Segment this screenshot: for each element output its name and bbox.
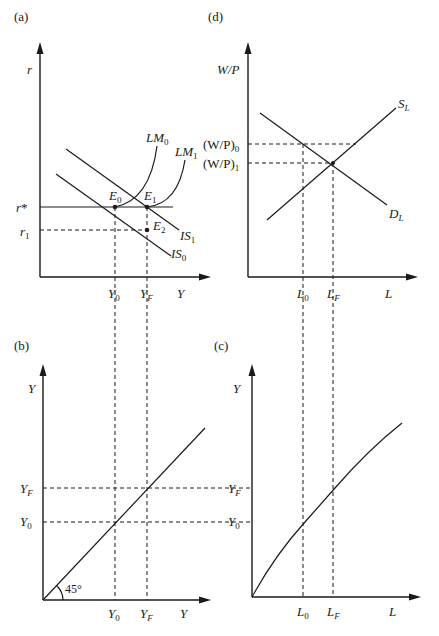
panel-b-45-degree-line <box>43 428 205 600</box>
panel-d-labor-market: (d) W/P L SL DL (W/P)0 (W/P)1 L0 LF <box>203 9 418 597</box>
panel-b-tick-Y0-x: Y0 <box>108 606 120 623</box>
panel-a-label-IS0: IS0 <box>170 246 187 263</box>
panel-d-x-arrow-icon <box>406 274 418 281</box>
panel-b-angle-label: 45° <box>65 582 82 596</box>
panel-a-label: (a) <box>14 9 28 24</box>
panel-a-label-LM0: LM0 <box>145 130 169 147</box>
panel-a-x-axis-label: Y <box>177 286 186 301</box>
panel-b-x-arrow-icon <box>199 597 211 604</box>
panel-b-angle-arc <box>57 586 63 600</box>
panel-c-y-axis-label: Y <box>233 381 242 396</box>
panel-a-IS0-curve <box>56 174 171 256</box>
panel-d-y-arrow-icon <box>245 42 252 54</box>
panel-a-x-arrow-icon <box>199 274 211 281</box>
panel-c-label: (c) <box>214 338 228 353</box>
panel-c-production-curve <box>252 423 402 597</box>
panel-d-tick-WP0: (W/P)0 <box>203 137 240 154</box>
panel-b-y-arrow-icon <box>40 364 47 376</box>
panel-a-point-E1 <box>145 205 150 210</box>
panel-c-tick-YF: YF <box>228 481 241 498</box>
panel-a-IS1-curve <box>66 149 179 230</box>
panel-d-label-SL: SL <box>398 96 410 113</box>
panel-c-x-arrow-icon <box>409 594 421 601</box>
panel-a-tick-r1: r1 <box>20 224 30 241</box>
panel-b-y-axis-label: Y <box>28 381 37 396</box>
panel-a-y-arrow-icon <box>37 42 44 54</box>
panel-a-label-LM1: LM1 <box>174 144 198 161</box>
panel-a-tick-r-star: r* <box>16 200 28 215</box>
panel-c-production-function: (c) Y L YF Y0 L0 LF <box>214 338 421 621</box>
panel-b-tick-YF: YF <box>20 481 33 498</box>
panel-b-label: (b) <box>14 338 29 353</box>
panel-d-x-axis-label: L <box>384 286 392 301</box>
four-panel-macro-diagram: (a) r Y r* r1 Y0 YF LM0 LM1 IS0 IS1 <box>0 0 439 636</box>
panel-a-point-E2 <box>145 228 150 233</box>
panel-d-tick-LF: LF <box>326 286 340 303</box>
panel-a-label-E1: E1 <box>143 188 156 205</box>
panel-d-equilibrium-point <box>331 161 335 165</box>
panel-d-DL-curve <box>260 113 387 205</box>
panel-c-tick-Y0: Y0 <box>228 514 240 531</box>
panel-d-tick-WP1: (W/P)1 <box>203 156 239 173</box>
panel-d-y-axis-label: W/P <box>217 62 239 77</box>
panel-d-label-DL: DL <box>388 206 403 223</box>
panel-b-45-degree: (b) Y Y 45° YF Y0 Y0 YF <box>14 338 252 623</box>
panel-a-y-axis-label: r <box>27 62 33 77</box>
panel-b-tick-YF-x: YF <box>140 606 153 623</box>
panel-c-x-axis-label: L <box>388 604 396 619</box>
panel-c-y-arrow-icon <box>249 364 256 376</box>
panel-d-tick-L0: L0 <box>296 286 309 303</box>
panel-a-label-E0: E0 <box>108 188 122 205</box>
panel-c-tick-LF: LF <box>326 604 340 621</box>
panel-a-point-E0 <box>113 205 118 210</box>
diagram-canvas: (a) r Y r* r1 Y0 YF LM0 LM1 IS0 IS1 <box>0 0 439 636</box>
panel-b-tick-Y0: Y0 <box>20 514 32 531</box>
panel-b-x-axis-label: Y <box>180 606 189 621</box>
panel-a-label-IS1: IS1 <box>179 228 195 245</box>
panel-a-tick-YF: YF <box>140 286 153 303</box>
panel-d-label: (d) <box>208 9 223 24</box>
panel-c-tick-L0: L0 <box>296 604 309 621</box>
panel-a-tick-Y0: Y0 <box>108 286 120 303</box>
panel-a-label-E2: E2 <box>152 218 165 235</box>
